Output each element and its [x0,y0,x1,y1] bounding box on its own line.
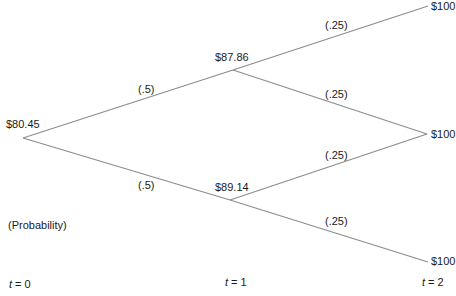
binomial-tree [0,0,456,296]
prob-up-down: (.25) [325,88,348,101]
branch-root-down [23,138,230,200]
prob-root-up: (.5) [138,83,155,96]
prob-down-down: (.25) [325,215,348,228]
node-dd-value: $100 [431,255,455,268]
prob-root-down: (.5) [138,179,155,192]
time-label-1: t = 1 [225,276,247,289]
time-value-2: = 2 [425,276,444,288]
node-uu-value: $100 [431,0,455,13]
node-up-value: $87.86 [215,51,249,64]
prob-down-up: (.25) [325,149,348,162]
branch-root-up [23,70,233,138]
time-value-0: = 0 [12,278,31,290]
time-value-1: = 1 [228,276,247,288]
branch-up-down [233,70,427,134]
node-mid-value: $100 [431,128,455,141]
branch-up-up [233,6,428,70]
probability-legend: (Probability) [8,219,67,232]
time-label-0: t = 0 [9,278,31,291]
branch-down-up [230,134,427,200]
prob-up-up: (.25) [325,19,348,32]
branch-down-down [230,200,428,262]
node-down-value: $89.14 [215,181,249,194]
time-label-2: t = 2 [422,276,444,289]
node-root-value: $80.45 [6,118,40,131]
